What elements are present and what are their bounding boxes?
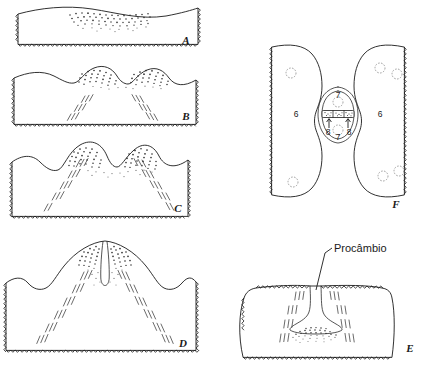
panel-a-outline: [18, 7, 198, 44]
panel-f-label-7-lower: 7: [336, 132, 341, 142]
panel-e-cut-edge-bottom: [243, 357, 390, 359]
panel-c-cut-edge-left: [10, 162, 12, 217]
panel-f-label-7-upper: 7: [336, 90, 341, 100]
panel-f: 6 6 7 7 8 8 F: [270, 45, 406, 210]
figure-root: A: [0, 0, 432, 365]
panel-e-procambium-label: Procâmbio: [334, 242, 387, 254]
panel-f-right-flanking-cell: [354, 45, 404, 197]
panel-f-label-6-right: 6: [378, 109, 383, 119]
panel-letter-f: F: [391, 198, 400, 210]
panel-d: D: [4, 241, 199, 352]
panel-letter-c: C: [174, 202, 182, 214]
panel-a: A: [16, 7, 201, 46]
panel-f-label-8-left: 8: [326, 127, 331, 137]
panel-letter-b: B: [181, 110, 189, 122]
panel-letter-a: A: [181, 34, 189, 46]
panel-c: C: [10, 142, 191, 218]
panel-b: B: [12, 66, 199, 126]
diagram-canvas: A: [0, 0, 432, 365]
panel-e-outline: [240, 285, 395, 357]
panel-f-left-flanking-cell: [272, 45, 322, 197]
panel-e: Procâmbio E: [240, 242, 414, 359]
panel-letter-d: D: [178, 337, 187, 349]
panel-c-outline: [12, 142, 188, 216]
panel-f-label-6-left: 6: [294, 109, 299, 119]
panel-e-procambium-leader: [316, 248, 332, 290]
panel-b-outline: [14, 66, 196, 124]
panel-f-label-8-right: 8: [347, 127, 352, 137]
panel-f-cut-edge-right: [404, 47, 406, 194]
panel-a-cut-edge-left: [16, 14, 18, 42]
panel-letter-e: E: [405, 342, 413, 354]
panel-f-cut-edge-left: [270, 47, 272, 194]
